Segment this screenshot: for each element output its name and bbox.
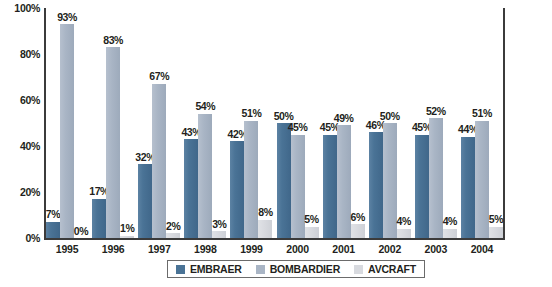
bar-bombardier-2003[interactable]: 52% (429, 118, 443, 238)
bar-avcraft-2003[interactable]: 4% (443, 229, 457, 238)
bar-avcraft-1999[interactable]: 8% (258, 220, 272, 238)
bar-bombardier-1998[interactable]: 54% (198, 114, 212, 238)
x-tick-label: 1996 (102, 243, 125, 255)
bar-group: 50%45%5% (275, 8, 321, 238)
bar-slot: 5% (305, 8, 319, 238)
y-tick-label: 100% (14, 2, 40, 14)
bar-group: 43%54%3% (182, 8, 228, 238)
bar-slot: 49% (337, 8, 351, 238)
bar-embraer-2000[interactable]: 50% (277, 123, 291, 238)
bar-embraer-1996[interactable]: 17% (92, 199, 106, 238)
y-axis: 0%20%40%60%80%100% (0, 0, 42, 240)
bar-embraer-2001[interactable]: 45% (323, 135, 337, 239)
bar-bombardier-2001[interactable]: 49% (337, 125, 351, 238)
bar-slot: 52% (429, 8, 443, 238)
bar-bombardier-2000[interactable]: 45% (291, 135, 305, 239)
bar-avcraft-1997[interactable]: 2% (166, 233, 180, 238)
x-tick-label: 1997 (148, 243, 171, 255)
bar-slot: 4% (443, 8, 457, 238)
bar-avcraft-2000[interactable]: 5% (305, 227, 319, 239)
bar-embraer-2002[interactable]: 46% (369, 132, 383, 238)
bar-slot: 4% (397, 8, 411, 238)
bar-bombardier-1997[interactable]: 67% (152, 84, 166, 238)
x-tick-label: 1995 (56, 243, 79, 255)
y-tick-label: 60% (20, 94, 40, 106)
bar-group: 45%52%4% (413, 8, 459, 238)
bar-value-label: 4% (397, 216, 411, 227)
bar-embraer-1995[interactable]: 7% (46, 222, 60, 238)
bar-slot: 83% (106, 8, 120, 238)
bar-avcraft-1996[interactable]: 1% (120, 236, 134, 238)
bar-avcraft-2002[interactable]: 4% (397, 229, 411, 238)
bar-avcraft-1998[interactable]: 3% (212, 231, 226, 238)
bar-bombardier-1995[interactable]: 93% (60, 24, 74, 238)
y-tick-label: 80% (20, 48, 40, 60)
bar-bombardier-1999[interactable]: 51% (244, 121, 258, 238)
x-tick-label: 2001 (332, 243, 355, 255)
bar-slot: 46% (369, 8, 383, 238)
legend-item-embraer[interactable]: EMBRAER (176, 263, 242, 275)
bar-slot: 0% (74, 8, 88, 238)
bar-embraer-2003[interactable]: 45% (415, 135, 429, 239)
x-tick-label: 2000 (286, 243, 309, 255)
bar-group: 44%51%5% (459, 8, 505, 238)
bar-value-label: 0% (74, 226, 88, 237)
legend-label: BOMBARDIER (270, 263, 340, 275)
bar-value-label: 1% (120, 223, 134, 234)
bar-embraer-1999[interactable]: 42% (230, 141, 244, 238)
bar-bombardier-2004[interactable]: 51% (475, 121, 489, 238)
bar-avcraft-2004[interactable]: 5% (489, 227, 503, 239)
bar-bombardier-1996[interactable]: 83% (106, 47, 120, 238)
bar-slot: 93% (60, 8, 74, 238)
plot-area: 7%93%0%17%83%1%32%67%2%43%54%3%42%51%8%5… (44, 8, 505, 240)
legend-item-bombardier[interactable]: BOMBARDIER (256, 263, 340, 275)
bar-value-label: 6% (350, 212, 364, 223)
bar-value-label: 5% (489, 214, 503, 225)
bar-bombardier-2002[interactable]: 50% (383, 123, 397, 238)
bar-group: 7%93%0% (44, 8, 90, 238)
bar-value-label: 3% (212, 219, 226, 230)
bar-value-label: 5% (304, 214, 318, 225)
legend-swatch-icon (354, 265, 363, 274)
bar-slot: 67% (152, 8, 166, 238)
bar-embraer-1998[interactable]: 43% (184, 139, 198, 238)
bar-group: 42%51%8% (228, 8, 274, 238)
bar-slot: 51% (475, 8, 489, 238)
bar-group: 32%67%2% (136, 8, 182, 238)
bar-group: 17%83%1% (90, 8, 136, 238)
bar-avcraft-2001[interactable]: 6% (351, 224, 365, 238)
bar-slot: 5% (489, 8, 503, 238)
y-tick-label: 0% (25, 232, 40, 244)
bar-slot: 43% (184, 8, 198, 238)
bar-slot: 2% (166, 8, 180, 238)
x-axis: 1995199619971998199920002001200220032004 (44, 243, 505, 259)
x-axis-line (44, 238, 505, 240)
legend-label: EMBRAER (190, 263, 242, 275)
bar-value-label: 2% (166, 221, 180, 232)
bar-embraer-1997[interactable]: 32% (138, 164, 152, 238)
bar-slot: 3% (212, 8, 226, 238)
bar-slot: 8% (258, 8, 272, 238)
bar-slot: 7% (46, 8, 60, 238)
bar-value-label: 4% (443, 216, 457, 227)
legend-swatch-icon (176, 265, 185, 274)
x-tick-label: 1998 (194, 243, 217, 255)
x-tick-label: 1999 (240, 243, 263, 255)
bar-embraer-2004[interactable]: 44% (461, 137, 475, 238)
y-tick-label: 20% (20, 186, 40, 198)
bar-slot: 44% (461, 8, 475, 238)
legend-swatch-icon (256, 265, 265, 274)
bar-group: 46%50%4% (367, 8, 413, 238)
x-tick-label: 2003 (425, 243, 448, 255)
legend-label: AVCRAFT (368, 263, 416, 275)
grouped-bar-chart: 0%20%40%60%80%100% 7%93%0%17%83%1%32%67%… (0, 0, 552, 287)
x-tick-label: 2004 (471, 243, 494, 255)
bar-group: 45%49%6% (321, 8, 367, 238)
bar-slot: 42% (230, 8, 244, 238)
legend-item-avcraft[interactable]: AVCRAFT (354, 263, 416, 275)
bar-slot: 45% (415, 8, 429, 238)
chart-legend: EMBRAERBOMBARDIERAVCRAFT (167, 260, 425, 278)
x-tick-label: 2002 (378, 243, 401, 255)
bar-value-label: 8% (258, 207, 272, 218)
bar-slot: 54% (198, 8, 212, 238)
